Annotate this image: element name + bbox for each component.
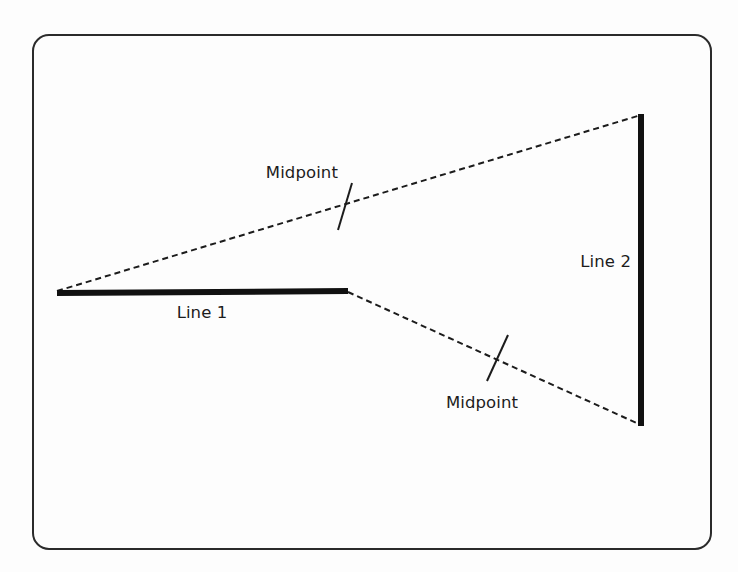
line-1-label: Line 1 xyxy=(177,303,228,322)
diagram-canvas: Line 1 Line 2 Midpoint Midpoint xyxy=(0,0,738,572)
figure-root: Line 1 Line 2 Midpoint Midpoint xyxy=(0,0,738,572)
line-1-segment xyxy=(57,291,348,293)
dashed-connector-upper xyxy=(57,115,641,291)
upper-midpoint-label: Midpoint xyxy=(266,163,339,182)
lower-midpoint-tick-mark xyxy=(487,335,508,381)
line-2-label: Line 2 xyxy=(580,252,631,271)
lower-midpoint-label: Midpoint xyxy=(446,393,519,412)
